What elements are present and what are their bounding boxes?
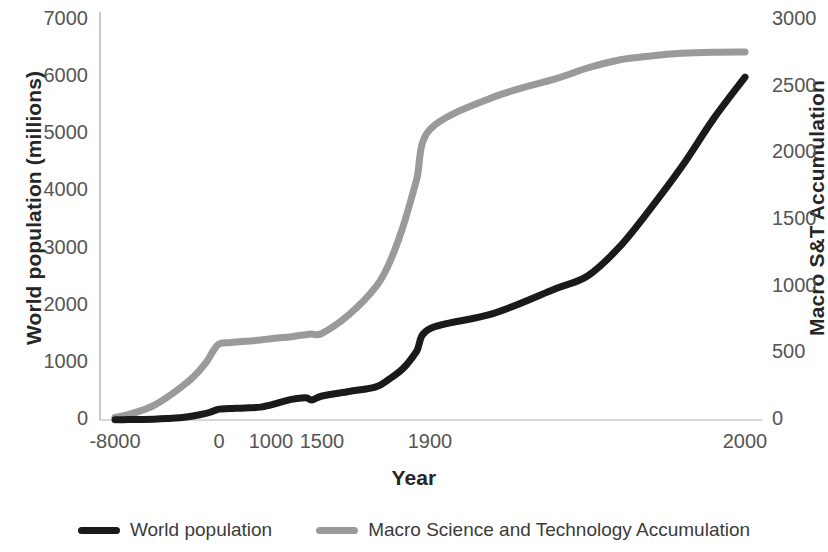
- legend-label: World population: [130, 519, 272, 541]
- chart-figure: World population (millions) Macro S&T Ac…: [0, 0, 828, 552]
- chart-legend: World populationMacro Science and Techno…: [0, 519, 828, 541]
- plot-area: [0, 0, 828, 552]
- legend-entry[interactable]: World population: [78, 519, 272, 541]
- series-line-macro-st-accumulation: [115, 52, 745, 417]
- legend-label: Macro Science and Technology Accumulatio…: [368, 519, 750, 541]
- legend-entry[interactable]: Macro Science and Technology Accumulatio…: [316, 519, 750, 541]
- legend-swatch-icon: [78, 527, 120, 534]
- legend-swatch-icon: [316, 527, 358, 534]
